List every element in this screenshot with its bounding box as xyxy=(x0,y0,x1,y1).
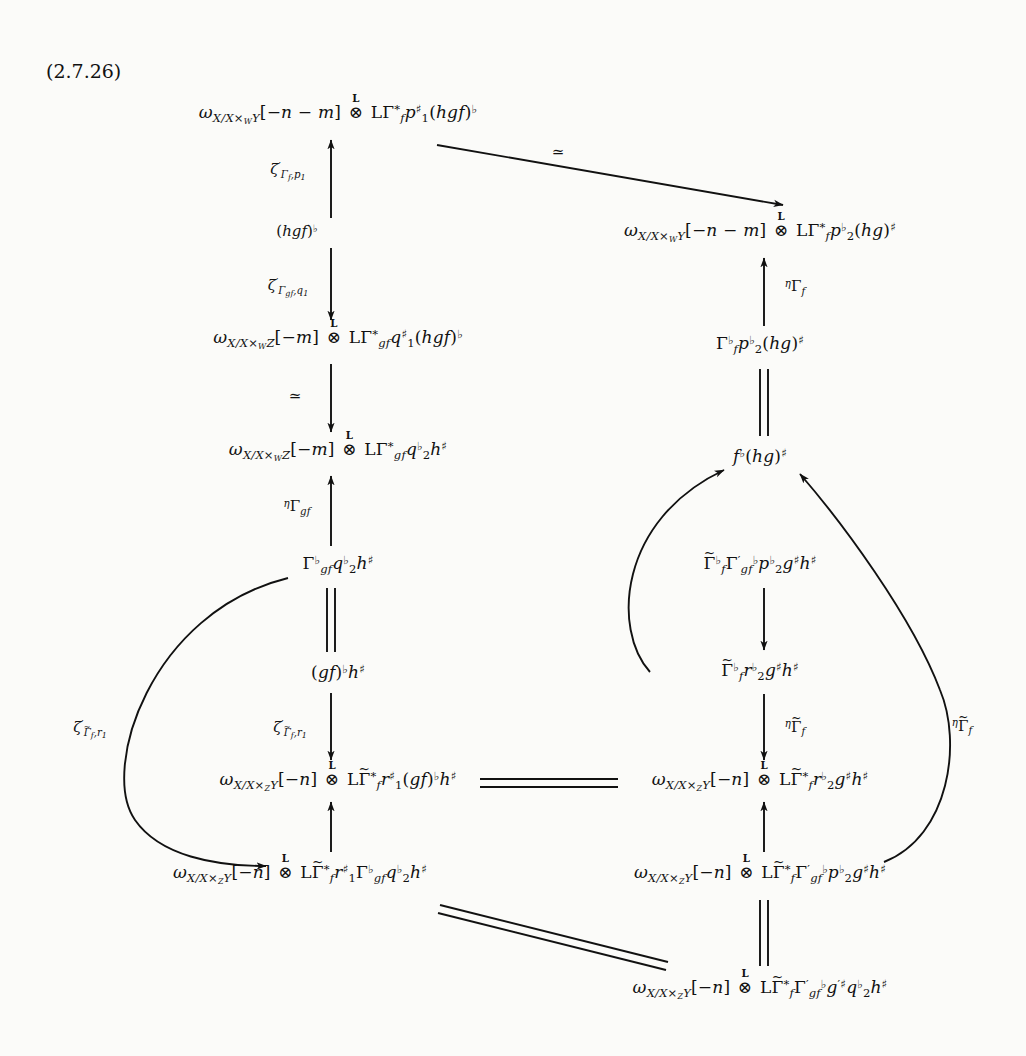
arrow-label-zeta-gamma-gf-q1: ζ′Γgf,q1 xyxy=(268,278,308,299)
equality-n12-n13 xyxy=(760,369,768,436)
curve-n10-to-n13-outer-right xyxy=(800,474,950,862)
arrow-label-eta-gamma-gf: ηΓgf xyxy=(284,499,311,518)
arrow-label-iso-diagonal-top: ≃ xyxy=(552,145,565,161)
equality-n10-n11-vertical xyxy=(760,900,768,966)
arrow-label-eta-gamma-f: ηΓf xyxy=(785,279,805,298)
arrow-label-zeta-gamma-f-p1: ζ′Γf,p1 xyxy=(270,162,305,183)
diagram-node-center-bottom-left: ωX/X×ZY[−n] L⊗ L~Γ*fr♯1(gf)♭h♯ xyxy=(220,770,457,794)
diagram-node-right-upper: ωX/X×WY[−n − m] L⊗ LΓ*fp♭2(hg)♯ xyxy=(624,221,896,245)
diagram-node-left-gf-flat: (gf)♭h♯ xyxy=(311,663,365,682)
equation-number: (2.7.26) xyxy=(46,60,121,82)
arrow-label-eta-gammatilde-f-mid: η~Γf xyxy=(785,719,805,738)
diagram-node-right-gammatilde-big: ~Γ♭fΓ′gf♭p♭2g♯h♯ xyxy=(704,554,817,576)
equality-n9-n11-diagonal xyxy=(438,905,668,970)
diagram-arrow-layer xyxy=(0,0,1026,1056)
arrow-label-hgf-flat: (hgf)♭ xyxy=(276,224,317,240)
diagram-node-left-third: ωX/X×WZ[−m] L⊗ LΓ*gfq♭2h♯ xyxy=(229,440,447,464)
arrow-label-zeta-gammatilde-f-r1-outer: ζ′~Γf,r1 xyxy=(73,720,107,741)
arrow-label-iso-left: ≃ xyxy=(289,389,302,405)
diagram-node-bottom-left: ωX/X×ZY[−n] L⊗ L~Γ*fr♯1Γ♭gfq♭2h♯ xyxy=(173,863,427,887)
arrow-label-zeta-gammatilde-f-r1-inner: ζ′~Γf,r1 xyxy=(273,720,307,741)
equality-n7-n8-horizontal xyxy=(480,779,618,787)
arrow-label-eta-gammatilde-f-right: η~Γf xyxy=(952,718,972,737)
curve-n5-to-n9-outer-left xyxy=(124,578,288,866)
diagram-node-left-gamma-gf: Γ♭gfq♭2h♯ xyxy=(303,554,374,576)
arrow-n1-to-n2-diagonal-iso xyxy=(437,145,783,205)
diagram-node-bottom-right: ωX/X×ZY[−n] L⊗ L~Γ*fΓ′gf♭p♭2g♯h♯ xyxy=(634,863,886,887)
equality-n5-n6 xyxy=(327,588,335,652)
diagram-node-left-second: ωX/X×WZ[−m] L⊗ LΓ*gfq♯1(hgf)♭ xyxy=(213,328,463,352)
diagram-node-bottom-center-last: ωX/X×ZY[−n] L⊗ L~Γ*fΓ′gf♭g′♯q♭2h♯ xyxy=(633,978,888,1002)
diagram-node-top-left: ωX/X×WY[−n − m] L⊗ LΓ*fp♯1(hgf)♭ xyxy=(199,103,477,127)
diagram-node-center-bottom-right: ωX/X×ZY[−n] L⊗ L~Γ*fr♭2g♯h♯ xyxy=(652,770,869,794)
diagram-node-right-gamma-f: Γ♭fp♭2(hg)♯ xyxy=(716,334,804,356)
equation-diagram-page: (2.7.26) ωX/X×WY[−n − m] L⊗ LΓ*fp♯1(hgf)… xyxy=(0,0,1026,1056)
diagram-node-right-gammatilde-r2: ~Γ♭fr♭2g♯h♯ xyxy=(721,661,799,683)
diagram-node-right-f-flat: f♭(hg)♯ xyxy=(733,447,787,466)
